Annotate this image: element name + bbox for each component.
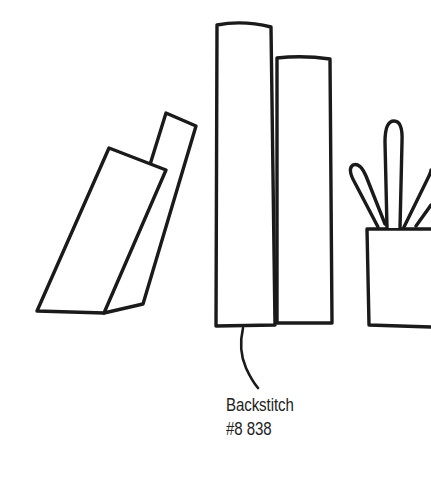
upright-book-tall xyxy=(216,23,275,326)
illustration-canvas: Backstitch #8 838 xyxy=(0,0,431,477)
plant-pot xyxy=(367,229,431,327)
leaf-right-outer xyxy=(416,205,431,226)
leaf-right-inner xyxy=(404,170,431,227)
leaf-left xyxy=(350,164,385,227)
leaf-center xyxy=(385,121,402,228)
stitch-name-label: Backstitch xyxy=(226,396,355,415)
curved-leader-line xyxy=(241,328,258,388)
thread-code-label: #8 838 xyxy=(226,420,355,439)
annotation-label: Backstitch #8 838 xyxy=(226,396,376,439)
upright-book-short xyxy=(277,57,332,323)
